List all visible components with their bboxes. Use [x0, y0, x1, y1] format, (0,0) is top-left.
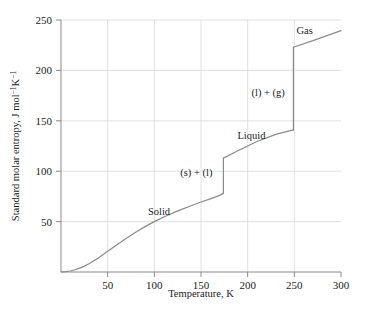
- phase-label-liquid: Liquid: [237, 130, 266, 141]
- tick-marks-group: [56, 20, 341, 277]
- curve-segment-solid: [61, 193, 223, 272]
- x-axis-title: Temperature, K: [168, 288, 234, 299]
- y-tick-label: 200: [36, 64, 53, 76]
- y-tick-label: 50: [41, 216, 53, 228]
- x-tick-label: 50: [102, 279, 114, 291]
- svg-text:Standard molar entropy, J mol−: Standard molar entropy, J mol−1K−1: [9, 71, 22, 222]
- y-tick-label: 100: [36, 165, 53, 177]
- y-axis-title-sup2: −1: [9, 71, 18, 79]
- y-axis-title-lead: Standard molar entropy, J mol: [10, 94, 21, 221]
- chart-canvas: 5010015020025030050100150200250 Solid(s)…: [0, 0, 368, 314]
- tick-labels-group: 5010015020025030050100150200250: [36, 14, 350, 291]
- gridlines-group: [61, 20, 341, 272]
- y-tick-label: 250: [36, 14, 53, 26]
- y-tick-label: 150: [36, 115, 53, 127]
- phase-label-solid: Solid: [148, 206, 171, 217]
- x-tick-label: 300: [333, 279, 350, 291]
- entropy-vs-temperature-figure: 5010015020025030050100150200250 Solid(s)…: [0, 0, 368, 314]
- x-tick-label: 250: [286, 279, 303, 291]
- phase-label-l-plus-g: (l) + (g): [252, 87, 286, 99]
- x-tick-label: 100: [146, 279, 163, 291]
- phase-label-gas: Gas: [296, 25, 312, 36]
- phase-label-s-plus-l: (s) + (l): [180, 167, 213, 179]
- x-tick-label: 200: [239, 279, 256, 291]
- y-axis-title: Standard molar entropy, J mol−1K−1: [9, 71, 22, 222]
